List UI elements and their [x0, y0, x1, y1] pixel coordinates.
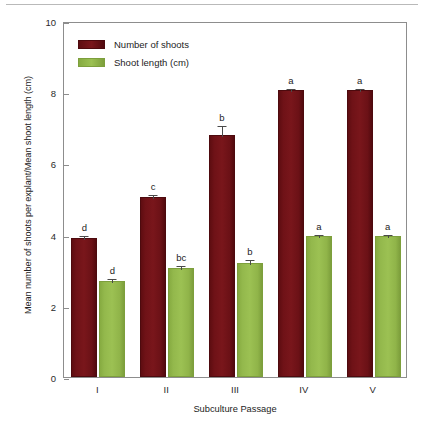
significance-letter: b	[219, 112, 224, 123]
bar-shoot-length-ii	[168, 268, 194, 377]
legend-item-number-of-shoots: Number of shoots	[78, 37, 189, 52]
legend-label-number-of-shoots: Number of shoots	[114, 39, 189, 50]
y-tick-mark	[64, 23, 69, 24]
plot-area: Number of shoots Shoot length (cm) ddcbc…	[63, 22, 407, 378]
y-tick-mark	[64, 165, 69, 166]
error-bar-cap	[314, 235, 323, 236]
significance-letter: c	[151, 181, 156, 192]
bar-shoot-length-iii	[237, 263, 263, 377]
error-bar-cap	[286, 89, 295, 90]
error-bar-cap	[218, 126, 227, 127]
x-tick-label-iv: IV	[274, 384, 334, 395]
y-tick-mark	[64, 237, 69, 238]
y-tick-mark	[64, 379, 69, 380]
error-bar-cap	[383, 235, 392, 236]
bar-shoot-length-v	[375, 236, 401, 377]
significance-letter: a	[288, 75, 293, 86]
y-tick-mark	[64, 308, 69, 309]
y-tick-label: 2	[30, 301, 56, 312]
error-bar-stem	[222, 126, 223, 137]
legend-swatch-icon-shoot-length	[78, 58, 105, 67]
bar-number-of-shoots-i	[71, 238, 97, 377]
x-tick-label-ii: II	[136, 384, 196, 395]
significance-letter: d	[82, 222, 87, 233]
bar-chart-figure: Mean number of shoots per explant/Mean s…	[0, 0, 424, 429]
bar-shoot-length-i	[99, 281, 125, 377]
bar-shoot-length-iv	[306, 236, 332, 377]
bar-number-of-shoots-v	[347, 90, 373, 377]
significance-letter: d	[110, 265, 115, 276]
error-bar-cap	[149, 195, 158, 196]
bar-number-of-shoots-iii	[209, 135, 235, 377]
bar-number-of-shoots-iv	[278, 90, 304, 377]
significance-letter: bc	[176, 252, 186, 263]
x-tick-label-i: I	[67, 384, 127, 395]
y-tick-label: 8	[30, 88, 56, 99]
significance-letter: a	[385, 221, 390, 232]
legend-swatch-icon-number-of-shoots	[78, 40, 105, 49]
error-bar-cap	[246, 260, 255, 261]
x-tick-label-v: V	[343, 384, 403, 395]
significance-letter: a	[316, 221, 321, 232]
legend-item-shoot-length: Shoot length (cm)	[78, 55, 189, 70]
chart-legend: Number of shoots Shoot length (cm)	[78, 37, 189, 73]
x-tick-label-iii: III	[205, 384, 265, 395]
error-bar-cap	[177, 266, 186, 267]
significance-letter: b	[247, 246, 252, 257]
y-tick-label: 6	[30, 159, 56, 170]
y-tick-label: 10	[30, 17, 56, 28]
legend-label-shoot-length: Shoot length (cm)	[114, 57, 189, 68]
error-bar-cap	[355, 89, 364, 90]
bar-number-of-shoots-ii	[140, 197, 166, 377]
y-tick-label: 4	[30, 230, 56, 241]
significance-letter: a	[357, 75, 362, 86]
error-bar-cap	[80, 236, 89, 237]
error-bar-cap	[108, 279, 117, 280]
y-tick-label: 0	[30, 373, 56, 384]
x-axis-title: Subculture Passage	[63, 404, 407, 414]
y-tick-mark	[64, 94, 69, 95]
